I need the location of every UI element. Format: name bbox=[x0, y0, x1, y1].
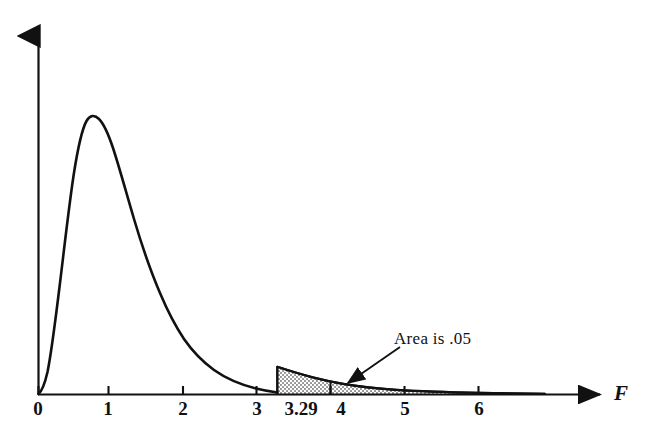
x-tick-label-3: 3 bbox=[252, 398, 262, 420]
x-tick-label-5: 5 bbox=[400, 398, 410, 420]
annotation-leader-arrow bbox=[348, 347, 400, 383]
chart-canvas bbox=[0, 0, 647, 438]
f-distribution-figure: 0 1 2 3 3.29 4 5 6 F Area is .05 bbox=[0, 0, 647, 438]
x-axis-name-label: F bbox=[614, 381, 628, 406]
x-tick-label-2: 2 bbox=[178, 398, 188, 420]
x-tick-label-4: 4 bbox=[336, 398, 346, 420]
area-annotation-label: Area is .05 bbox=[394, 329, 471, 349]
x-tick-label-3-29: 3.29 bbox=[284, 398, 317, 420]
density-curve bbox=[39, 116, 278, 394]
x-tick-label-0: 0 bbox=[33, 398, 43, 420]
x-tick-label-6: 6 bbox=[474, 398, 484, 420]
x-tick-label-1: 1 bbox=[103, 398, 113, 420]
